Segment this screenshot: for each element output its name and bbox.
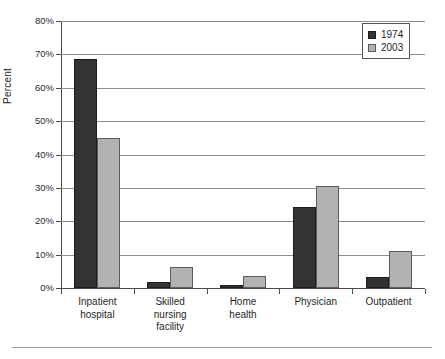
- bar: [243, 276, 266, 288]
- x-tick-mark: [352, 289, 353, 294]
- y-tick-label: 40%: [20, 149, 54, 160]
- y-tick-label: 10%: [20, 249, 54, 260]
- x-tick-label: Inpatient hospital: [61, 296, 134, 321]
- x-tick-label: Skilled nursing facility: [134, 296, 207, 334]
- y-axis-title: Percent: [2, 46, 18, 126]
- bar-group: [74, 21, 120, 288]
- x-tick-mark: [425, 289, 426, 294]
- bar: [147, 282, 170, 288]
- x-tick-mark: [134, 289, 135, 294]
- y-tick-label: 80%: [20, 15, 54, 26]
- y-tick-label: 70%: [20, 48, 54, 59]
- bar: [293, 207, 316, 288]
- bar: [366, 277, 389, 288]
- bar: [389, 251, 412, 288]
- bar: [170, 267, 193, 288]
- legend-label: 1974: [381, 29, 403, 40]
- plot-area: [61, 21, 425, 288]
- bar: [220, 285, 243, 288]
- y-tick-label: 20%: [20, 215, 54, 226]
- x-tick-label: Home health: [207, 296, 280, 321]
- y-tick-label: 60%: [20, 82, 54, 93]
- x-tick-mark: [207, 289, 208, 294]
- bar-group: [147, 21, 193, 288]
- bar-group: [220, 21, 266, 288]
- x-tick-mark: [279, 289, 280, 294]
- legend-entry: 1974: [368, 28, 403, 41]
- legend-swatch-icon: [368, 31, 376, 39]
- legend: 19742003: [362, 23, 410, 59]
- y-tick-label: 30%: [20, 182, 54, 193]
- bar: [316, 186, 339, 288]
- legend-entry: 2003: [368, 41, 403, 54]
- bar: [97, 138, 120, 288]
- legend-swatch-icon: [368, 44, 376, 52]
- bottom-rule-divider: [12, 347, 432, 348]
- x-tick-label: Physician: [279, 296, 352, 309]
- gridline: [61, 288, 425, 289]
- bar-group: [293, 21, 339, 288]
- x-tick-label: Outpatient: [352, 296, 425, 309]
- bar: [74, 59, 97, 288]
- bar-group: [366, 21, 412, 288]
- legend-label: 2003: [381, 42, 403, 53]
- x-tick-mark: [61, 289, 62, 294]
- y-tick-label: 50%: [20, 115, 54, 126]
- y-tick-label: 0%: [20, 282, 54, 293]
- bar-chart-figure: Percent 0%10%20%30%40%50%60%70%80% Inpat…: [0, 0, 445, 359]
